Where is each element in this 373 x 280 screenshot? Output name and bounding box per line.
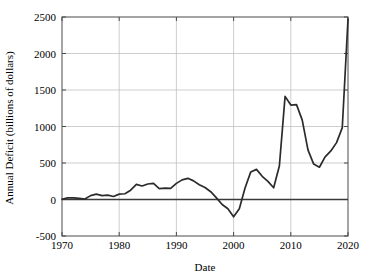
- y-tick-label: -500: [36, 230, 57, 242]
- y-tick-label: 1000: [34, 121, 57, 133]
- deficit-line-chart: 197019801990200020102020 -50005001000150…: [0, 0, 373, 280]
- x-tick-label: 2020: [337, 239, 360, 251]
- x-tick-label: 1980: [108, 239, 131, 251]
- x-tick-label: 2010: [280, 239, 303, 251]
- x-tick-label: 1990: [165, 239, 188, 251]
- y-tick-label: 1500: [34, 84, 57, 96]
- x-axis-title: Date: [195, 261, 216, 273]
- y-axis-title: Annual Deficit (billions of dollars): [3, 51, 16, 205]
- y-tick-label: 0: [51, 194, 57, 206]
- x-tick-label: 2000: [223, 239, 246, 251]
- chart-figure: 197019801990200020102020 -50005001000150…: [0, 0, 373, 280]
- y-tick-label: 2500: [34, 11, 57, 23]
- y-tick-label: 500: [40, 157, 57, 169]
- y-tick-label: 2000: [34, 48, 57, 60]
